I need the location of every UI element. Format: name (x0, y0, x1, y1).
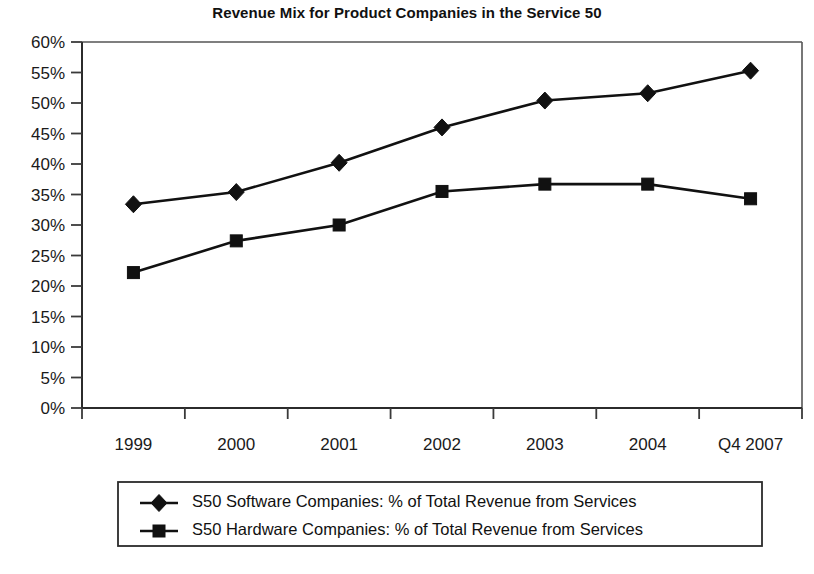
y-tick-label: 30% (31, 216, 65, 235)
x-axis: 199920002001200220032004Q4 2007 (82, 408, 802, 454)
x-tick-label: 2003 (526, 435, 564, 454)
series-layer (125, 62, 758, 278)
data-point-diamond-marker (537, 92, 553, 109)
y-tick-label: 40% (31, 155, 65, 174)
plot-frame (82, 42, 802, 408)
legend-entry-1: S50 Software Companies: % of Total Reven… (140, 492, 637, 511)
y-axis: 60%55%50%45%40%35%30%25%20%15%10%5%0% (31, 33, 82, 418)
data-point-square-marker (642, 178, 654, 190)
data-point-square-marker (230, 235, 242, 247)
x-tick-label: 2000 (217, 435, 255, 454)
y-tick-label: 55% (31, 64, 65, 83)
data-point-diamond-marker (640, 85, 656, 102)
x-tick-label: 2004 (629, 435, 667, 454)
chart-container: Revenue Mix for Product Companies in the… (0, 0, 814, 574)
y-tick-label: 50% (31, 94, 65, 113)
x-tick-label: 1999 (115, 435, 153, 454)
data-point-diamond-marker (125, 196, 141, 213)
x-tick-label: 2001 (320, 435, 358, 454)
y-tick-label: 5% (40, 369, 65, 388)
y-tick-label: 15% (31, 308, 65, 327)
x-tick-labels: 199920002001200220032004Q4 2007 (115, 435, 784, 454)
y-tick-label: 0% (40, 399, 65, 418)
y-tick-marks (71, 42, 82, 408)
data-point-diamond-marker (434, 119, 450, 136)
data-point-square-marker (436, 185, 448, 197)
data-point-square-marker (153, 525, 165, 537)
x-tick-label: 2002 (423, 435, 461, 454)
data-point-square-marker (539, 178, 551, 190)
y-tick-label: 25% (31, 247, 65, 266)
data-point-square-marker (333, 219, 345, 231)
x-tick-label: Q4 2007 (718, 435, 783, 454)
data-point-diamond-marker (228, 184, 244, 201)
x-tick-marks (82, 408, 802, 419)
y-tick-label: 10% (31, 338, 65, 357)
y-tick-label: 35% (31, 186, 65, 205)
data-point-square-marker (745, 193, 757, 205)
series-line (133, 71, 750, 205)
y-tick-label: 45% (31, 125, 65, 144)
legend-label: S50 Hardware Companies: % of Total Reven… (192, 520, 643, 538)
data-point-square-marker (127, 267, 139, 279)
y-tick-label: 60% (31, 33, 65, 52)
y-tick-labels: 60%55%50%45%40%35%30%25%20%15%10%5%0% (31, 33, 65, 418)
data-point-diamond-marker (743, 62, 759, 79)
line-chart-plot: 60%55%50%45%40%35%30%25%20%15%10%5%0% 19… (0, 0, 814, 574)
legend-entry-2: S50 Hardware Companies: % of Total Reven… (140, 520, 643, 538)
y-tick-label: 20% (31, 277, 65, 296)
data-point-diamond-marker (331, 154, 347, 171)
legend-label: S50 Software Companies: % of Total Reven… (192, 492, 637, 510)
chart-legend: S50 Software Companies: % of Total Reven… (118, 482, 762, 546)
